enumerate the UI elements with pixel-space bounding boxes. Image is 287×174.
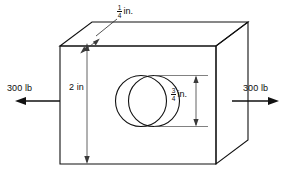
thickness-unit: in. — [124, 6, 134, 16]
engineering-figure: 300 lb 300 lb 2 in 1 4 in. 3 4 in. — [0, 0, 287, 174]
block-solid — [60, 22, 248, 164]
front-face — [60, 46, 216, 164]
arrow-left-icon — [15, 97, 26, 105]
thickness-dimension-label: 1 4 in. — [117, 4, 133, 19]
hole-diameter-fraction: 3 4 — [171, 88, 176, 103]
thickness-fraction: 1 4 — [117, 5, 122, 20]
left-force-label: 300 lb — [7, 84, 32, 93]
hole-diameter-dimension-label: 3 4 in. — [171, 87, 187, 102]
top-face — [60, 22, 248, 46]
arrow-right-icon — [268, 97, 279, 105]
thickness-numerator: 1 — [117, 5, 122, 12]
height-dimension-label: 2 in — [69, 83, 84, 92]
hole-diameter-unit: in. — [178, 89, 188, 99]
thickness-denominator: 4 — [117, 12, 122, 19]
hole-diameter-denominator: 4 — [171, 95, 176, 102]
hole-diameter-numerator: 3 — [171, 88, 176, 95]
left-force-arrow — [15, 97, 60, 105]
right-force-label: 300 lb — [243, 84, 268, 93]
right-side-face — [216, 22, 248, 164]
